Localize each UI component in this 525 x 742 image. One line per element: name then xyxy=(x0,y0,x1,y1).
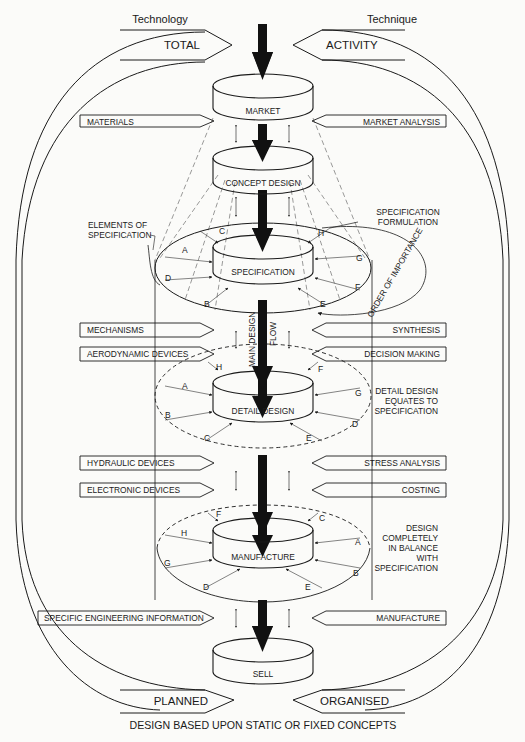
input-stress-analysis: STRESS ANALYSIS xyxy=(312,456,446,470)
svg-text:E: E xyxy=(306,433,312,443)
svg-text:D: D xyxy=(203,582,209,592)
input-electronic-devices: ELECTRONIC DEVICES xyxy=(80,483,214,497)
left-inputs: MATERIALS MECHANISMS AERODYNAMIC DEVICES… xyxy=(38,115,214,625)
svg-text:SPECIFICATION: SPECIFICATION xyxy=(88,230,152,240)
svg-text:SPECIFICATION: SPECIFICATION xyxy=(374,406,438,416)
outer-frame-right xyxy=(322,30,509,710)
svg-text:MECHANISMS: MECHANISMS xyxy=(87,325,144,335)
svg-text:HYDRAULIC DEVICES: HYDRAULIC DEVICES xyxy=(87,458,175,468)
svg-text:C: C xyxy=(319,513,325,523)
svg-text:E: E xyxy=(320,299,326,309)
stage-label-detail: DETAIL DESIGN xyxy=(232,406,295,416)
svg-text:WITH: WITH xyxy=(417,553,438,563)
svg-text:FORMULATION: FORMULATION xyxy=(378,217,438,227)
input-decision-making: DECISION MAKING xyxy=(312,347,446,361)
annotation-specification-formulation: SPECIFICATION FORMULATION xyxy=(376,207,440,227)
planned-arrow: PLANNED xyxy=(120,690,234,713)
input-specific-engineering-information: SPECIFIC ENGINEERING INFORMATION xyxy=(38,611,214,625)
svg-text:A: A xyxy=(182,245,188,255)
svg-text:ELECTRONIC DEVICES: ELECTRONIC DEVICES xyxy=(87,485,180,495)
svg-text:AERODYNAMIC DEVICES: AERODYNAMIC DEVICES xyxy=(87,349,189,359)
stage-label-market: MARKET xyxy=(246,106,281,116)
svg-text:DETAIL DESIGN: DETAIL DESIGN xyxy=(375,386,438,396)
svg-text:H: H xyxy=(318,228,324,238)
svg-text:D: D xyxy=(165,273,171,283)
svg-text:F: F xyxy=(318,364,323,374)
svg-text:E: E xyxy=(305,582,311,592)
activity-label: ACTIVITY xyxy=(326,39,378,51)
annotation-detail-equates: DETAIL DESIGN EQUATES TO SPECIFICATION xyxy=(374,386,438,416)
svg-text:MANUFACTURE: MANUFACTURE xyxy=(376,613,440,623)
total-label: TOTAL xyxy=(164,39,201,51)
total-arrow: TOTAL xyxy=(120,30,232,60)
svg-text:G: G xyxy=(164,558,171,568)
svg-text:B: B xyxy=(353,568,359,578)
svg-text:F: F xyxy=(216,509,221,519)
svg-text:SPECIFICATION: SPECIFICATION xyxy=(376,207,440,217)
stage-market: MARKET xyxy=(213,74,313,120)
svg-text:COMPLETELY: COMPLETELY xyxy=(382,533,438,543)
svg-text:H: H xyxy=(216,362,222,372)
svg-text:MATERIALS: MATERIALS xyxy=(87,117,134,127)
svg-text:G: G xyxy=(355,388,362,398)
stage-label-manufacture: MANUFACTURE xyxy=(231,552,295,562)
svg-text:IN BALANCE: IN BALANCE xyxy=(388,543,438,553)
input-mechanisms: MECHANISMS xyxy=(80,323,214,337)
svg-text:H: H xyxy=(181,528,187,538)
svg-text:A: A xyxy=(355,537,361,547)
activity-arrow: ACTIVITY xyxy=(293,30,405,60)
svg-text:DECISION MAKING: DECISION MAKING xyxy=(364,349,440,359)
main-flow-label-1: MAIN DESIGN xyxy=(247,312,257,367)
svg-text:B: B xyxy=(165,410,171,420)
input-aerodynamic-devices: AERODYNAMIC DEVICES xyxy=(80,347,214,361)
planned-label: PLANNED xyxy=(154,695,208,707)
input-market-analysis: MARKET ANALYSIS xyxy=(312,115,446,127)
total-design-diagram: Technology Technique TOTAL ACTIVITY PLAN… xyxy=(0,0,525,742)
svg-text:DESIGN: DESIGN xyxy=(406,523,438,533)
input-materials: MATERIALS xyxy=(80,115,214,127)
input-costing: COSTING xyxy=(312,483,446,497)
annotation-elements-of-specification: ELEMENTS OF SPECIFICATION xyxy=(88,220,155,250)
organised-label: ORGANISED xyxy=(320,695,389,707)
organised-arrow: ORGANISED xyxy=(293,690,405,713)
svg-text:EQUATES TO: EQUATES TO xyxy=(385,396,439,406)
svg-text:D: D xyxy=(352,419,358,429)
svg-text:SPECIFIC ENGINEERING INFORMATI: SPECIFIC ENGINEERING INFORMATION xyxy=(44,613,204,623)
technique-title: Technique xyxy=(367,13,417,25)
svg-text:STRESS ANALYSIS: STRESS ANALYSIS xyxy=(364,458,440,468)
svg-text:SPECIFICATION: SPECIFICATION xyxy=(374,563,438,573)
svg-text:B: B xyxy=(204,299,210,309)
outer-frame-left xyxy=(16,32,205,710)
svg-text:F: F xyxy=(355,282,360,292)
svg-text:ELEMENTS OF: ELEMENTS OF xyxy=(88,220,147,230)
stage-label-specification: SPECIFICATION xyxy=(231,267,295,277)
input-synthesis: SYNTHESIS xyxy=(312,323,446,337)
svg-text:COSTING: COSTING xyxy=(402,485,440,495)
diagram-caption: DESIGN BASED UPON STATIC OR FIXED CONCEP… xyxy=(130,719,397,731)
svg-text:A: A xyxy=(182,381,188,391)
svg-text:G: G xyxy=(356,253,363,263)
stage-label-concept: CONCEPT DESIGN xyxy=(225,178,300,188)
svg-text:C: C xyxy=(219,226,225,236)
svg-text:C: C xyxy=(204,433,210,443)
technology-title: Technology xyxy=(132,13,188,25)
svg-text:SYNTHESIS: SYNTHESIS xyxy=(393,325,441,335)
input-manufacture: MANUFACTURE xyxy=(312,611,446,625)
svg-text:MARKET ANALYSIS: MARKET ANALYSIS xyxy=(363,117,440,127)
annotation-order-of-importance: ORDER OF IMPORTANCE xyxy=(365,226,425,319)
annotation-design-balance: DESIGN COMPLETELY IN BALANCE WITH SPECIF… xyxy=(374,523,438,573)
stage-label-sell: SELL xyxy=(253,669,274,679)
input-hydraulic-devices: HYDRAULIC DEVICES xyxy=(80,456,214,470)
main-flow-label-2: FLOW xyxy=(268,322,278,346)
